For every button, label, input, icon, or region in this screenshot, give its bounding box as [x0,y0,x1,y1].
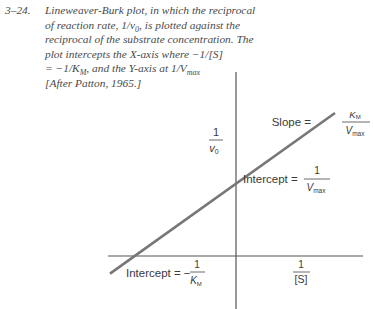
slope-prefix: Slope = [272,116,312,128]
y-intercept-prefix: Intercept = [243,173,298,185]
x-label-num: 1 [298,259,304,270]
x-intercept-annotation: Intercept = − 1 KM [126,259,205,287]
x-axis-label: 1 [S] [293,259,310,285]
x-intercept-den: KM [190,275,202,287]
y-intercept-den: Vmax [307,182,327,194]
y-axis-label: 1 v0 [209,126,223,155]
x-intercept-num: 1 [194,259,200,270]
data-line [110,113,335,274]
slope-den: Vmax [346,125,366,137]
x-label-den: [S] [295,273,308,285]
lineweaver-burk-plot: 1 v0 Slope = KM Vmax Intercept = 1 Vmax … [0,0,373,309]
y-label-num: 1 [213,126,219,138]
x-intercept-prefix: Intercept = − [126,267,191,279]
y-label-den: v0 [209,142,219,155]
y-intercept-num: 1 [314,165,320,176]
slope-num: KM [349,109,360,120]
